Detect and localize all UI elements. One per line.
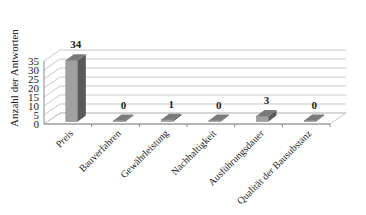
bar: 34 — [66, 38, 86, 121]
chart-canvas: 05101520253035 3401030 PreisBauverfahren… — [0, 0, 366, 215]
x-tick-label: Nachhaltigkeit — [169, 127, 219, 177]
y-tick-label: 35 — [28, 55, 40, 67]
data-label: 0 — [311, 99, 317, 111]
y-axis-label: Anzahl der Antworten — [8, 29, 20, 127]
bars: 3401030 — [66, 38, 324, 121]
bar: 1 — [161, 98, 181, 122]
gridlines — [44, 50, 346, 124]
data-label: 1 — [168, 98, 174, 110]
data-label: 3 — [264, 94, 270, 106]
x-axis: PreisBauverfahrenGewährleistungNachhalti… — [44, 124, 330, 207]
bar: 0 — [304, 99, 324, 122]
x-tick-label: Bauverfahren — [77, 128, 123, 174]
data-label: 0 — [216, 99, 222, 111]
data-label: 0 — [121, 99, 127, 111]
y-axis: 05101520253035 — [28, 55, 40, 130]
bar: 3 — [257, 94, 277, 121]
x-tick-label: Preis — [53, 128, 75, 150]
bar-chart: 05101520253035 3401030 PreisBauverfahren… — [0, 0, 366, 215]
x-tick-label: Gewährleistung — [118, 128, 171, 181]
bar: 0 — [114, 99, 134, 122]
data-label: 34 — [70, 38, 82, 50]
bar: 0 — [209, 99, 229, 122]
